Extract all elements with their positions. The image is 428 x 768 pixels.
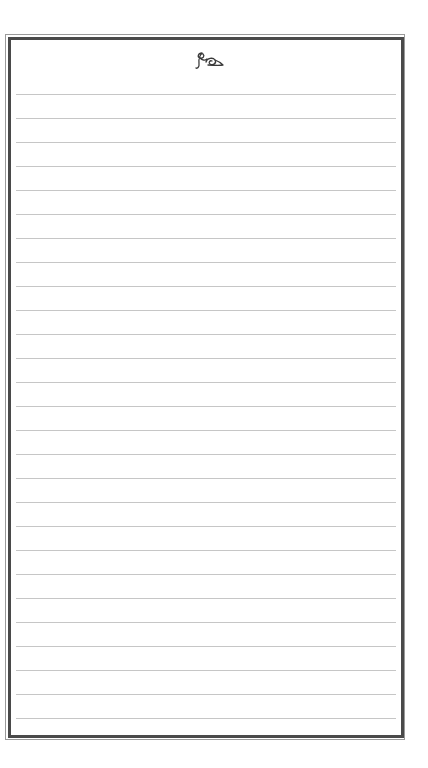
rule-line — [16, 598, 396, 599]
rule-line — [16, 190, 396, 191]
rule-line — [16, 310, 396, 311]
rule-line — [16, 502, 396, 503]
rule-line — [16, 646, 396, 647]
rule-line — [16, 454, 396, 455]
rule-line — [16, 262, 396, 263]
rule-line — [16, 622, 396, 623]
rule-line — [16, 382, 396, 383]
rule-line — [16, 166, 396, 167]
rule-line — [16, 526, 396, 527]
rule-line — [16, 358, 396, 359]
rule-line — [16, 94, 396, 95]
rule-line — [16, 670, 396, 671]
rule-line — [16, 718, 396, 719]
rule-line — [16, 478, 396, 479]
rule-line — [16, 334, 396, 335]
rule-line — [16, 286, 396, 287]
ruled-lines-area[interactable] — [16, 0, 396, 768]
rule-line — [16, 694, 396, 695]
rule-line — [16, 214, 396, 215]
rule-line — [16, 142, 396, 143]
rule-line — [16, 430, 396, 431]
rule-line — [16, 118, 396, 119]
rule-line — [16, 406, 396, 407]
rule-line — [16, 574, 396, 575]
rule-line — [16, 238, 396, 239]
rule-line — [16, 550, 396, 551]
